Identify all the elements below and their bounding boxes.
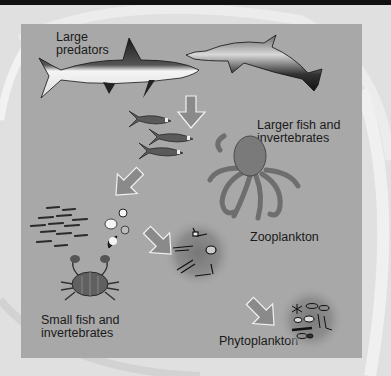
phytoplankton-cluster-icon [278, 286, 344, 352]
arrow-small-fish-to-zooplankton [140, 223, 178, 261]
arrow-predators-to-larger-fish [177, 94, 207, 130]
arrow-zooplankton-to-phytoplankton [243, 294, 281, 332]
arrow-larger-fish-to-small-fish [109, 164, 147, 202]
label-zooplankton: Zooplankton [250, 231, 319, 244]
label-small-fish: Small fish and invertebrates [41, 314, 120, 340]
top-band [0, 0, 391, 5]
shark-icon [31, 36, 201, 102]
octopus-icon [204, 132, 304, 222]
shells-icon [103, 208, 133, 252]
small-fish-school-icon [27, 204, 97, 254]
food-chain-panel: Large predators Larger fish and inverteb… [21, 24, 362, 358]
dolphin-icon [184, 33, 329, 93]
crab-icon [59, 254, 121, 306]
